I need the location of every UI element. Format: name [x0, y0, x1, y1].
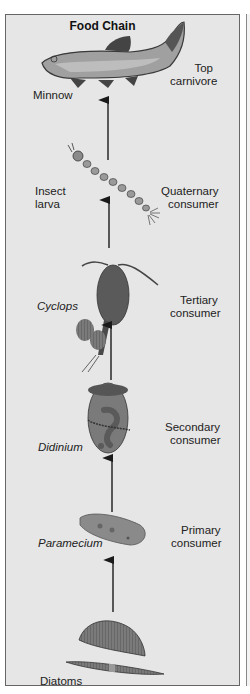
organism-label-minnow: Minnow	[33, 89, 73, 102]
copepod-icon	[76, 262, 158, 372]
food-chain-illustration	[0, 0, 250, 694]
role-label-top-carnivore: Top carnivore	[170, 62, 217, 88]
ciliate-icon	[88, 383, 130, 453]
role-label-quaternary-consumer: Quaternary consumer	[161, 185, 219, 211]
organism-label-insect-larva: Insect larva	[35, 185, 66, 211]
organism-label-diatoms: Diatoms	[40, 675, 82, 688]
organism-label-paramecium: Paramecium	[38, 537, 103, 550]
role-label-secondary-consumer: Secondary consumer	[165, 421, 221, 447]
role-label-primary-consumer: Primary consumer	[171, 524, 222, 550]
organism-label-cyclops: Cyclops	[37, 300, 78, 313]
organism-label-didinium: Didinium	[38, 441, 83, 454]
insect-larva-icon	[68, 143, 160, 225]
fish-icon	[42, 22, 184, 88]
diatom-icon	[66, 621, 164, 675]
role-label-tertiary-consumer: Tertiary consumer	[170, 294, 221, 320]
